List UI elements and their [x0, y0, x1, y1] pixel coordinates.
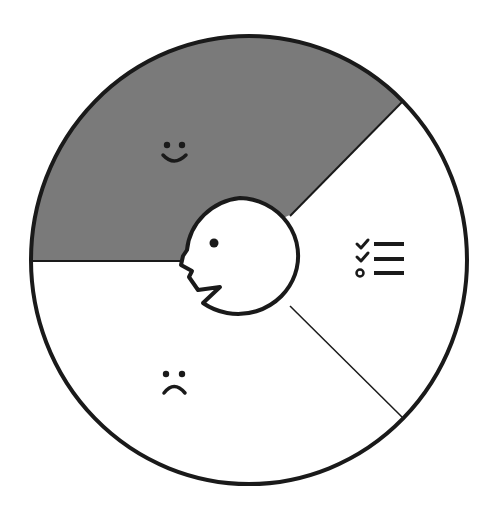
feedback-wheel-diagram: [0, 0, 497, 508]
checklist-icon: [357, 240, 405, 277]
eye-icon: [210, 239, 219, 248]
